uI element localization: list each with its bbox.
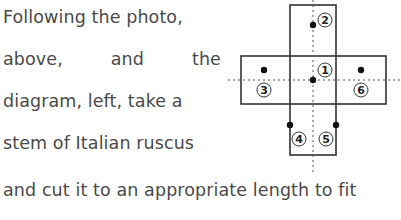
dot-center [310, 77, 316, 83]
label-1: 1 [318, 63, 332, 77]
dot-5 [333, 122, 339, 128]
label-2: 2 [318, 13, 332, 27]
svg-text:3: 3 [260, 84, 268, 97]
svg-text:4: 4 [295, 133, 303, 146]
dot-2 [310, 22, 316, 28]
svg-text:2: 2 [321, 14, 329, 27]
label-5: 5 [319, 132, 333, 146]
dot-6 [358, 67, 364, 73]
svg-text:5: 5 [322, 133, 330, 146]
dot-3 [261, 67, 267, 73]
svg-text:1: 1 [321, 64, 329, 77]
cross-diagram: 2 1 3 6 4 5 [0, 0, 401, 220]
svg-text:6: 6 [357, 84, 365, 97]
label-3: 3 [257, 83, 271, 97]
label-6: 6 [354, 83, 368, 97]
label-4: 4 [292, 132, 306, 146]
dot-4 [287, 122, 293, 128]
